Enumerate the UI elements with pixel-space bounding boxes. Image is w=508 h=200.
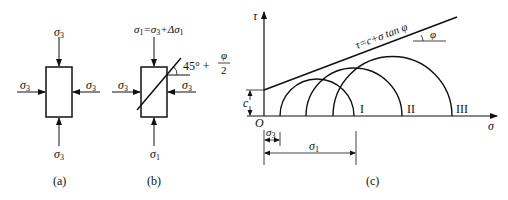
sigma-axis-label: σ bbox=[488, 119, 495, 133]
failure-envelope bbox=[264, 17, 457, 90]
sigma3-right-label-b: σ3 bbox=[182, 78, 192, 93]
failure-plane bbox=[137, 58, 181, 110]
circle-label-III: III bbox=[456, 102, 468, 116]
envelope-angle-arc bbox=[421, 35, 423, 41]
mohr-coulomb-figure: σ3 σ3 σ3 σ3 (a) σ1=σ3+Δσ1 σ1 σ3 σ3 45° +… bbox=[0, 0, 508, 200]
panel-b: σ1=σ3+Δσ1 σ1 σ3 σ3 45° + φ 2 (b) bbox=[112, 23, 230, 188]
angle-fraction-numerator: φ bbox=[221, 49, 227, 61]
angle-arc-b bbox=[174, 67, 177, 75]
sigma3-bottom-label-a: σ3 bbox=[54, 147, 64, 162]
caption-b: (b) bbox=[147, 174, 161, 188]
circle-label-II: II bbox=[407, 102, 415, 116]
sigma3-left-label-b: σ3 bbox=[118, 78, 128, 93]
failure-angle-label: 45° + bbox=[183, 59, 210, 73]
friction-angle-label: φ bbox=[430, 28, 436, 40]
panel-c: τ σ O I II III τ=c+σ tan φ φ c σ3 σ1 (c) bbox=[243, 9, 497, 188]
origin-label: O bbox=[255, 116, 264, 130]
soil-element-a bbox=[46, 67, 72, 117]
angle-fraction-denominator: 2 bbox=[221, 64, 227, 76]
tau-axis-label: τ bbox=[253, 9, 258, 23]
sigma3-left-label-a: σ3 bbox=[20, 78, 30, 93]
sigma3-right-label-a: σ3 bbox=[86, 78, 96, 93]
panel-a: σ3 σ3 σ3 σ3 (a) bbox=[17, 25, 100, 188]
caption-c: (c) bbox=[366, 174, 379, 188]
sigma3-top-label-a: σ3 bbox=[54, 25, 64, 40]
sigma3-dimension-label: σ3 bbox=[266, 126, 275, 140]
caption-a: (a) bbox=[53, 174, 66, 188]
soil-element-b bbox=[141, 67, 167, 117]
sigma1-bottom-label-b: σ1 bbox=[150, 147, 160, 162]
circle-label-I: I bbox=[360, 102, 364, 116]
sigma1-top-label-b: σ1=σ3+Δσ1 bbox=[134, 23, 184, 37]
sigma1-dimension-label: σ1 bbox=[309, 139, 319, 154]
cohesion-label: c bbox=[243, 96, 249, 110]
